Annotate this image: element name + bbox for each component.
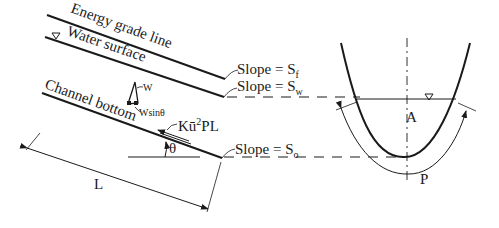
shear-force-label: KKū²PLū2PL [178,116,219,134]
perimeter-label: P [420,171,428,187]
water-surface-icon [52,33,60,39]
weight-vector-icon [128,82,138,104]
diagram-canvas: Energy grade line Water surface Channel … [0,0,499,228]
weight-label: W [143,82,153,93]
channel-cross-section [341,43,470,157]
slope-w-label: Slope = Sw [237,78,303,97]
area-label: A [406,109,417,125]
length-label: L [94,176,103,192]
angle-label: θ [169,140,176,156]
channel-bottom-label: Channel bottom [43,76,139,124]
wetted-perimeter-arc [341,108,466,174]
weight-component-label: Wsinθ [139,107,165,118]
